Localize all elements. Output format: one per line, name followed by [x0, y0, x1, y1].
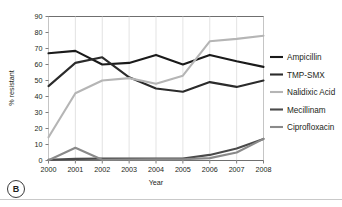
x-axis-title: Year	[149, 178, 164, 187]
x-tick-label: 2003	[121, 165, 137, 174]
y-tick-label: 80	[35, 28, 43, 37]
x-tick-label: 2004	[148, 165, 164, 174]
x-tick-label: 2000	[41, 165, 57, 174]
panel-label-b: B	[8, 181, 25, 198]
y-tick-label: 0	[39, 156, 43, 165]
legend-label-tmp-smx: TMP-SMX	[287, 71, 325, 80]
chart-legend: AmpicillinTMP-SMXNalidixic AcidMecillina…	[270, 53, 336, 132]
footer-divider	[0, 199, 342, 200]
legend-label-ampicillin: Ampicillin	[287, 53, 322, 62]
y-axis: 0102030405060708090	[35, 12, 49, 165]
legend-label-nalidixic-acid: Nalidixic Acid	[287, 88, 336, 97]
y-tick-label: 60	[35, 60, 43, 69]
y-tick-label: 10	[35, 140, 43, 149]
x-axis: 200020012002200320042005200620072008	[41, 161, 272, 175]
x-tick-label: 2006	[202, 165, 218, 174]
y-axis-title: % resistant	[7, 70, 16, 106]
x-tick-label: 2008	[256, 165, 272, 174]
y-tick-label: 70	[35, 44, 43, 53]
resistance-trend-line-chart: 0102030405060708090 20002001200220032004…	[0, 0, 342, 207]
x-tick-label: 2001	[67, 165, 83, 174]
y-tick-label: 50	[35, 76, 43, 85]
y-tick-label: 30	[35, 108, 43, 117]
legend-label-ciprofloxacin: Ciprofloxacin	[287, 123, 335, 132]
x-tick-label: 2005	[175, 165, 191, 174]
y-tick-label: 90	[35, 12, 43, 21]
x-tick-label: 2007	[229, 165, 245, 174]
legend-label-mecillinam: Mecillinam	[287, 106, 326, 115]
panel-label-text: B	[13, 184, 20, 194]
figure-panel-b: 0102030405060708090 20002001200220032004…	[0, 0, 342, 207]
y-tick-label: 20	[35, 124, 43, 133]
x-tick-label: 2002	[94, 165, 110, 174]
y-tick-label: 40	[35, 92, 43, 101]
